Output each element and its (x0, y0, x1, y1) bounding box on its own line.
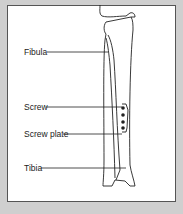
label-tibia: Tibia (24, 163, 42, 173)
screw-3 (121, 120, 125, 124)
fibula-outline (106, 35, 120, 180)
label-screw-plate: Screw plate (24, 129, 68, 139)
label-fibula: Fibula (24, 47, 47, 57)
screw-2 (121, 113, 125, 117)
label-screw: Screw (24, 102, 48, 112)
femur-end (100, 5, 135, 17)
screw-4 (121, 126, 125, 130)
